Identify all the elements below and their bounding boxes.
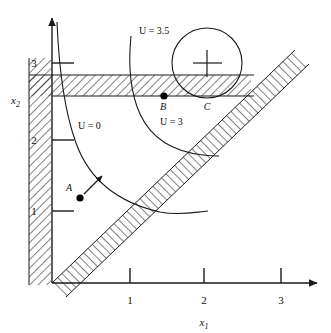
x-axis-title: x1	[199, 316, 209, 331]
x-axis-title-subscript: 1	[204, 322, 208, 331]
figure-canvas: 3 2 1 1 2 3 x2 x1 U = 0 U = 3	[0, 0, 331, 333]
optimum-cross-marker	[193, 50, 222, 77]
x-ticklabel-3: 3	[278, 294, 284, 306]
improvement-arrow-icon	[84, 176, 102, 194]
curve-u0: U = 0	[57, 22, 208, 214]
point-c: C	[204, 101, 211, 112]
y-ticklabel-1: 1	[31, 205, 37, 217]
point-a-label: A	[65, 182, 73, 193]
point-b-marker	[160, 92, 167, 99]
u35-label: U = 3.5	[139, 25, 169, 36]
point-a: A	[65, 176, 102, 202]
point-b-label: B	[160, 101, 166, 112]
u3-label: U = 3	[160, 116, 183, 127]
point-b: B	[160, 92, 168, 112]
u0-label: U = 0	[78, 120, 101, 131]
y-ticklabel-2: 2	[31, 134, 37, 146]
point-c-label: C	[204, 101, 211, 112]
x-ticklabel-1: 1	[127, 294, 133, 306]
y-axis-title: x2	[10, 94, 20, 109]
x-axis-ticks: 1 2 3	[127, 268, 284, 306]
y-axis-title-subscript: 2	[16, 100, 20, 109]
axes	[52, 18, 317, 283]
y-ticklabel-3: 3	[31, 57, 37, 69]
x-ticklabel-2: 2	[201, 294, 207, 306]
point-a-marker	[76, 194, 83, 201]
constrained-optimization-plot: 3 2 1 1 2 3 x2 x1 U = 0 U = 3	[0, 0, 331, 333]
u0-curve-path	[57, 22, 208, 214]
diagonal-band-lower-edge	[66, 64, 309, 297]
